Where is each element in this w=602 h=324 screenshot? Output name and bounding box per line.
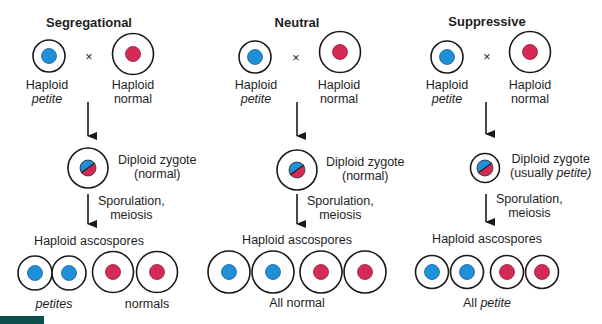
result-label-petites: petites: [36, 297, 73, 311]
label-line: Sporulation,: [98, 194, 165, 208]
label-line: meiosis: [98, 208, 165, 222]
corner-color-bar: [0, 316, 44, 324]
diploid-zygote-cell: [471, 154, 500, 183]
process-label: Sporulation, meiosis: [98, 194, 165, 222]
zygote-label: Diploid zygote (normal): [326, 155, 405, 183]
label-line: Haploid: [426, 78, 468, 92]
panel-title-suppressive: Suppressive: [448, 15, 525, 29]
ascospore-row: [416, 256, 559, 289]
label-line: Haploid: [318, 78, 360, 92]
ascospores-label: Haploid ascospores: [34, 234, 144, 248]
label-line: Diploid zygote: [326, 155, 405, 169]
label-line: normal: [318, 92, 360, 106]
label-line: meiosis: [496, 206, 563, 220]
parent-normal-cell: [320, 32, 361, 73]
ascospore-row: [208, 251, 386, 293]
diploid-zygote-cell: [277, 150, 317, 190]
parent-petite-cell: [431, 41, 463, 73]
parent-petite-cell: [33, 40, 65, 72]
label-text-italic: petite: [557, 166, 588, 180]
label-line: Diploid zygote: [118, 153, 197, 167]
label-line: Diploid zygote: [510, 152, 591, 166]
label-line: (usually petite): [510, 166, 591, 180]
process-label: Sporulation, meiosis: [307, 194, 374, 222]
label-text-italic: petite: [480, 296, 511, 310]
parent-petite-label: Haploid petite: [26, 78, 68, 106]
cross-symbol: ×: [292, 51, 299, 65]
diploid-zygote-cell: [68, 148, 108, 188]
cross-symbol: ×: [85, 50, 92, 64]
panel-title-segregational: Segregational: [46, 16, 132, 30]
result-label-normals: normals: [125, 297, 169, 311]
parent-petite-label: Haploid petite: [235, 78, 277, 106]
label-text: ): [587, 166, 591, 180]
label-line: Haploid: [26, 78, 68, 92]
parent-normal-cell: [510, 32, 551, 73]
label-line: (normal): [118, 167, 197, 181]
label-line: meiosis: [307, 208, 374, 222]
ascospore-row: [18, 252, 178, 293]
parent-normal-label: Haploid normal: [112, 78, 154, 106]
label-line: petite: [426, 92, 468, 106]
zygote-label: Diploid zygote (normal): [118, 153, 197, 181]
cross-symbol: ×: [483, 50, 490, 64]
ascospores-label: Haploid ascospores: [432, 232, 542, 246]
result-label: All petite: [463, 296, 511, 310]
ascospores-label: Haploid ascospores: [242, 233, 352, 247]
parent-normal-cell: [113, 34, 154, 75]
label-line: Haploid: [112, 78, 154, 92]
label-line: Haploid: [235, 78, 277, 92]
label-text: All: [463, 296, 480, 310]
label-line: (normal): [326, 169, 405, 183]
label-line: Haploid: [509, 78, 551, 92]
parent-petite-label: Haploid petite: [426, 78, 468, 106]
zygote-label: Diploid zygote (usually petite): [510, 152, 591, 180]
label-line: petite: [235, 92, 277, 106]
label-text: (usually: [510, 166, 557, 180]
label-line: Sporulation,: [496, 192, 563, 206]
process-label: Sporulation, meiosis: [496, 192, 563, 220]
label-line: Sporulation,: [307, 194, 374, 208]
label-line: normal: [509, 92, 551, 106]
label-line: normal: [112, 92, 154, 106]
label-line: petite: [26, 92, 68, 106]
parent-normal-label: Haploid normal: [509, 78, 551, 106]
parent-normal-label: Haploid normal: [318, 78, 360, 106]
parent-petite-cell: [239, 41, 271, 73]
result-label: All normal: [269, 296, 325, 310]
panel-title-neutral: Neutral: [275, 16, 320, 30]
